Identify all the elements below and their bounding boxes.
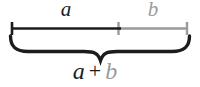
segment-b-label: b [148, 0, 159, 20]
plus-sign: + [89, 58, 101, 83]
sum-label-a: a [73, 58, 85, 84]
underbrace [11, 36, 190, 61]
segment-a-label: a [61, 0, 72, 20]
sum-label-b: b [105, 58, 117, 84]
segment-addition-diagram: a b a+b [0, 0, 200, 87]
sum-label: a+b [73, 59, 117, 83]
